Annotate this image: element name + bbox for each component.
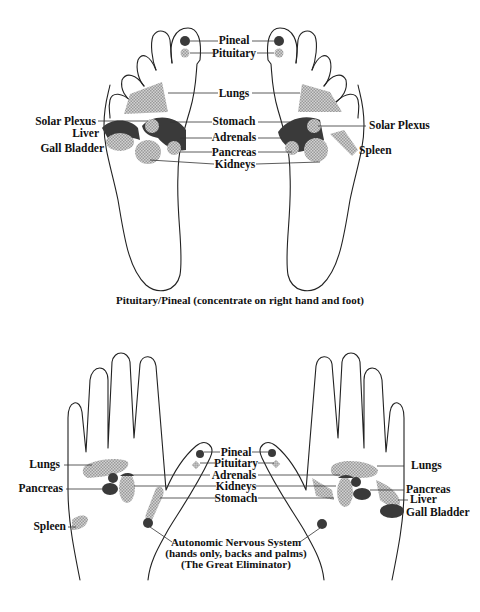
right-foot-pancreas-zone <box>285 141 299 155</box>
right-hand-lungs-zone <box>331 461 378 478</box>
feet-caption: Pituitary/Pineal (concentrate on right h… <box>116 294 364 307</box>
left-hand-pineal-zone <box>196 450 204 458</box>
right-foot-lungs-zone <box>298 84 342 112</box>
foot-label-liver: Liver <box>72 127 99 139</box>
hand-label-stomach: Stomach <box>215 492 258 504</box>
foot-label-stomach: Stomach <box>213 115 256 127</box>
hand-label-lungs-right: Lungs <box>411 459 442 472</box>
foot-labels: Pineal Pituitary Lungs Stomach Adrenals … <box>35 34 430 171</box>
right-hand-autonomic-zone <box>317 519 327 529</box>
reflexology-diagram: Pineal Pituitary Lungs Stomach Adrenals … <box>0 0 480 612</box>
left-hand-adrenals-zone <box>108 473 118 483</box>
left-foot-zones <box>102 36 190 164</box>
foot-label-pituitary: Pituitary <box>212 47 256 60</box>
foot-label-lungs: Lungs <box>219 87 250 100</box>
foot-label-spleen: Spleen <box>359 144 392 157</box>
left-hand-pancreas-zone <box>102 483 118 495</box>
foot-label-solar-plexus-left: Solar Plexus <box>35 115 96 127</box>
left-foot-pineal-zone <box>180 36 190 46</box>
foot-label-solar-plexus-right: Solar Plexus <box>369 119 430 131</box>
left-foot-gall-bladder-zone <box>106 133 134 151</box>
left-hand-autonomic-zone <box>143 518 153 528</box>
right-hand-stomach-zone <box>312 478 334 500</box>
left-hand-pituitary-zone <box>192 461 200 469</box>
foot-label-kidneys: Kidneys <box>215 158 256 171</box>
left-hand-adrenals-cap <box>120 473 134 476</box>
left-foot-lungs-zone <box>124 82 168 114</box>
foot-label-adrenals: Adrenals <box>212 131 257 143</box>
foot-label-pineal: Pineal <box>219 34 250 46</box>
hand-label-gall-bladder: Gall Bladder <box>406 506 470 518</box>
right-foot-spleen-zone <box>330 130 358 156</box>
right-foot-pineal-zone <box>274 36 284 46</box>
right-hand-pituitary-zone <box>272 460 280 468</box>
left-hand-zones <box>72 450 204 530</box>
left-foot-pancreas-zone <box>167 141 181 155</box>
foot-label-pancreas: Pancreas <box>212 146 257 158</box>
left-hand-stomach-zone <box>145 487 163 522</box>
hands-caption: Autonomic Nervous System (hands only, ba… <box>165 536 307 571</box>
right-foot-pituitary-zone <box>275 49 284 58</box>
hand-label-lungs-left: Lungs <box>29 458 60 471</box>
right-hand-pineal-zone <box>268 449 276 457</box>
right-hand-adrenals-zone <box>351 477 361 487</box>
right-hand-pancreas-zone <box>353 488 371 500</box>
left-hand-spleen-zone <box>72 516 88 531</box>
foot-label-gall-bladder: Gall Bladder <box>40 142 104 154</box>
right-hand-gall-bladder-zone <box>380 504 404 518</box>
hand-label-spleen: Spleen <box>33 520 66 533</box>
right-hand-liver-zone <box>376 480 400 507</box>
hands-caption-line-3: (The Great Eliminator) <box>181 558 291 571</box>
left-foot-pituitary-zone <box>181 49 190 58</box>
right-foot-kidneys-zone <box>304 138 328 162</box>
hand-label-pancreas-left: Pancreas <box>18 482 63 494</box>
right-hand-zones <box>268 449 404 529</box>
left-hand-kidneys-zone <box>119 473 135 503</box>
right-hand-kidneys-zone <box>337 477 353 507</box>
hand-label-liver: Liver <box>410 493 437 505</box>
